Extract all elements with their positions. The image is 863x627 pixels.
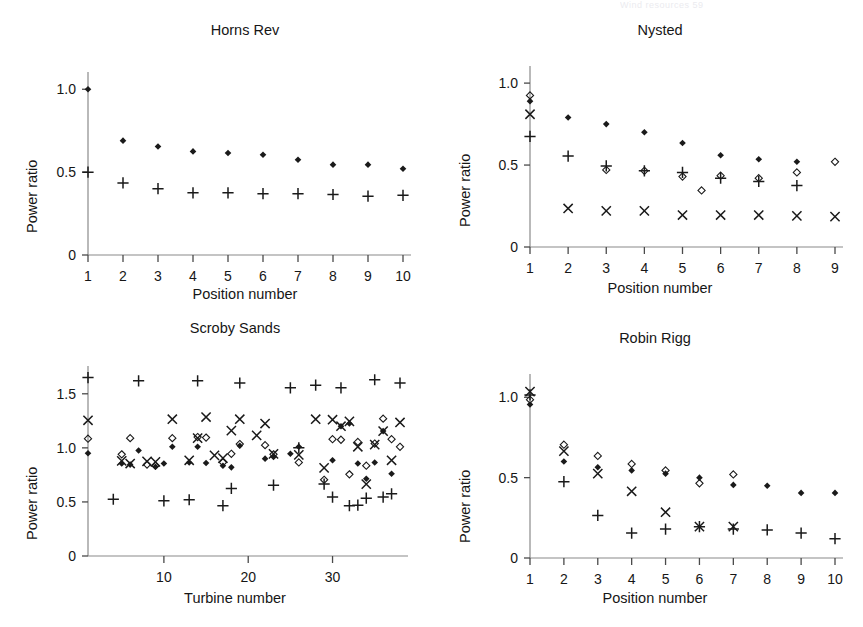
data-point-cross (168, 415, 177, 424)
data-point-cross (754, 210, 763, 219)
data-point-plus (563, 150, 574, 161)
data-point-cross (201, 412, 210, 421)
data-point-plus (187, 187, 198, 198)
x-tick-label: 4 (628, 571, 636, 587)
y-tick-label: 1.0 (499, 75, 519, 91)
x-tick-label: 1 (84, 268, 92, 284)
data-point-plus (592, 510, 603, 521)
data-point-cross (387, 456, 396, 465)
data-point-filled-diamond (135, 447, 142, 454)
x-tick-label: 10 (395, 268, 411, 284)
data-point-filled-diamond (679, 140, 686, 147)
data-point-filled-diamond (527, 401, 534, 408)
data-point-plus (234, 377, 245, 388)
data-point-plus (82, 372, 93, 383)
data-point-open-diamond (396, 443, 403, 450)
data-point-open-diamond (228, 450, 235, 457)
x-tick-label: 7 (755, 260, 763, 276)
y-tick-label: 1.5 (57, 386, 77, 402)
y-tick-label: 0.5 (57, 164, 77, 180)
x-tick-label: 3 (602, 260, 610, 276)
data-point-plus (626, 527, 637, 538)
data-point-plus (796, 527, 807, 538)
data-point-plus (361, 493, 372, 504)
x-tick-label: 3 (594, 571, 602, 587)
y-tick-label: 0 (510, 239, 518, 255)
data-point-open-diamond (202, 434, 209, 441)
x-axis-ticks: 102030 (156, 556, 340, 585)
data-point-plus (728, 523, 739, 534)
data-point-filled-diamond (594, 464, 601, 471)
data-point-plus (335, 382, 346, 393)
x-axis-ticks: 12345678910 (84, 255, 411, 284)
x-tick-label: 9 (797, 571, 805, 587)
data-point-cross (564, 204, 573, 213)
data-point-plus (362, 191, 373, 202)
data-point-filled-diamond (194, 443, 201, 450)
data-point-filled-diamond (330, 161, 337, 168)
x-tick-label: 7 (294, 268, 302, 284)
data-point-plus (133, 375, 144, 386)
data-point-plus (327, 491, 338, 502)
data-point-open-diamond (337, 436, 344, 443)
x-tick-label: 4 (189, 268, 197, 284)
series-filled-diamond (85, 420, 395, 482)
series-cross (525, 110, 839, 222)
data-point-plus (310, 380, 321, 391)
y-tick-label: 1.0 (499, 389, 519, 405)
data-point-filled-diamond (228, 464, 235, 471)
data-point-open-diamond (730, 471, 737, 478)
data-point-filled-diamond (329, 457, 336, 464)
plot-area-horns-rev: 00.51.012345678910 (0, 18, 430, 318)
y-tick-label: 0 (68, 247, 76, 263)
data-point-filled-diamond (755, 156, 762, 163)
x-tick-label: 8 (763, 571, 771, 587)
data-point-cross (678, 210, 687, 219)
x-tick-label: 2 (564, 260, 572, 276)
x-tick-label: 30 (325, 569, 341, 585)
data-point-open-diamond (363, 462, 370, 469)
data-point-plus (222, 187, 233, 198)
data-point-open-diamond (628, 460, 635, 467)
data-point-plus (292, 188, 303, 199)
data-point-plus (327, 189, 338, 200)
data-point-filled-diamond (225, 150, 232, 157)
data-point-plus (184, 494, 195, 505)
data-point-open-diamond (346, 471, 353, 478)
panel-horns-rev: Horns Rev Power ratio Position number 00… (0, 18, 430, 318)
data-point-filled-diamond (287, 451, 294, 458)
data-point-open-diamond (793, 169, 800, 176)
data-point-plus (217, 500, 228, 511)
data-point-filled-diamond (270, 454, 277, 461)
data-point-filled-diamond (169, 443, 176, 450)
data-point-plus (158, 495, 169, 506)
data-point-cross (227, 426, 236, 435)
data-point-cross (320, 463, 329, 472)
data-point-filled-diamond (85, 450, 92, 457)
data-point-open-diamond (261, 442, 268, 449)
data-point-plus (639, 165, 650, 176)
data-point-filled-diamond (118, 460, 125, 467)
data-point-plus (524, 389, 535, 400)
y-tick-label: 0.5 (499, 470, 519, 486)
data-point-open-diamond (380, 415, 387, 422)
data-point-filled-diamond (186, 459, 193, 466)
data-point-filled-diamond (832, 490, 839, 497)
data-point-open-diamond (169, 435, 176, 442)
x-tick-label: 10 (156, 569, 172, 585)
x-tick-label: 5 (224, 268, 232, 284)
series-filled-diamond (527, 401, 839, 496)
series-plus (524, 389, 840, 544)
data-point-open-diamond (371, 440, 378, 447)
data-point-plus (285, 382, 296, 393)
plot-area-robin-rigg: 00.51.012345678910 (435, 318, 863, 627)
series-cross (83, 412, 404, 488)
data-point-plus (369, 374, 380, 385)
data-point-plus (791, 180, 802, 191)
data-point-plus (829, 533, 840, 544)
data-point-plus (152, 183, 163, 194)
data-point-open-diamond (329, 436, 336, 443)
y-tick-label: 0.5 (57, 494, 77, 510)
data-point-filled-diamond (355, 460, 362, 467)
x-tick-label: 6 (259, 268, 267, 284)
